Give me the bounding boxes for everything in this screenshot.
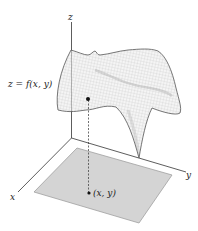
surface <box>50 40 190 165</box>
domain-region <box>34 148 172 223</box>
z-axis-label: z <box>67 12 73 22</box>
y-axis-label: y <box>185 170 192 180</box>
surface-equation-label: z = f(x, y) <box>7 79 53 89</box>
domain-point-label: (x, y) <box>93 188 116 198</box>
x-axis-label: x <box>10 192 15 202</box>
surface-graph-figure: z y x z = f(x, y) (x, y) <box>0 0 198 231</box>
surface-point <box>86 97 90 101</box>
domain-point <box>87 191 90 194</box>
